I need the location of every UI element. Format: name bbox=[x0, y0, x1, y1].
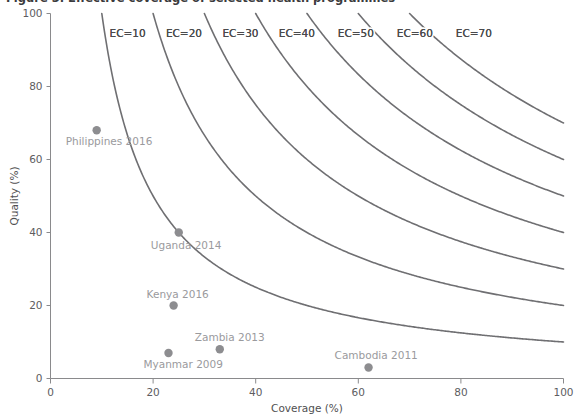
y-tick-label-40: 40 bbox=[29, 226, 42, 238]
ec-label-30: EC=30 bbox=[222, 27, 258, 39]
data-point-label-group: Philippines 2016Uganda 2014Kenya 2016Zam… bbox=[66, 135, 418, 370]
data-point-label: Uganda 2014 bbox=[151, 239, 222, 251]
data-point-label: Zambia 2013 bbox=[195, 331, 265, 343]
ec-label-60: EC=60 bbox=[397, 27, 433, 39]
data-point[interactable] bbox=[92, 126, 100, 134]
data-point[interactable] bbox=[164, 349, 172, 357]
ec-label-50: EC=50 bbox=[338, 27, 374, 39]
x-tick-label-80: 80 bbox=[454, 386, 467, 398]
y-tick-label-80: 80 bbox=[29, 80, 42, 92]
data-point-label: Kenya 2016 bbox=[147, 288, 210, 300]
x-tick-label-0: 0 bbox=[47, 386, 54, 398]
ec-curve-30 bbox=[204, 14, 563, 270]
data-point[interactable] bbox=[175, 228, 183, 236]
x-tick-label-100: 100 bbox=[553, 386, 573, 398]
data-point[interactable] bbox=[169, 301, 177, 309]
y-tick-label-60: 60 bbox=[29, 153, 42, 165]
ec-label-70: EC=70 bbox=[456, 27, 492, 39]
y-axis-title: Quality (%) bbox=[8, 166, 20, 225]
y-tick-label-20: 20 bbox=[29, 299, 42, 311]
data-point[interactable] bbox=[216, 345, 224, 353]
ec-label-40: EC=40 bbox=[279, 27, 315, 39]
data-point[interactable] bbox=[364, 363, 372, 371]
figure-container: Figure 3. Effective coverage of selected… bbox=[0, 0, 580, 414]
data-point-label: Cambodia 2011 bbox=[335, 349, 418, 361]
ec-curve-40 bbox=[256, 14, 564, 233]
x-tick-label-40: 40 bbox=[249, 386, 262, 398]
data-point-label: Myanmar 2009 bbox=[144, 358, 223, 370]
x-tick-label-20: 20 bbox=[146, 386, 159, 398]
ec-curve-50 bbox=[307, 14, 564, 197]
ec-label-20: EC=20 bbox=[166, 27, 202, 39]
data-point-label: Philippines 2016 bbox=[66, 135, 153, 147]
axes-group: 020406080100020406080100 bbox=[22, 7, 573, 397]
y-tick-label-0: 0 bbox=[36, 372, 43, 384]
y-tick-label-100: 100 bbox=[22, 7, 42, 19]
x-axis-title: Coverage (%) bbox=[271, 402, 343, 414]
scatter-plot: EC=10EC=10EC=20EC=20EC=30EC=30EC=40EC=40… bbox=[0, 0, 580, 414]
ec-label-10: EC=10 bbox=[110, 27, 146, 39]
ec-curve-20 bbox=[153, 14, 563, 306]
x-tick-label-60: 60 bbox=[352, 386, 365, 398]
